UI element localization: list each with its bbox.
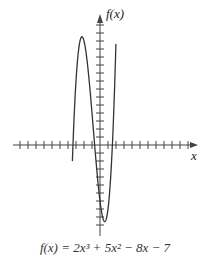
function-graph [0,0,210,263]
x-axis-label: x [191,148,197,164]
y-axis-label: f(x) [106,6,124,22]
function-curve [72,37,116,222]
function-caption: f(x) = 2x³ + 5x² − 8x − 7 [0,240,210,256]
y-axis-arrow-icon [97,14,103,23]
